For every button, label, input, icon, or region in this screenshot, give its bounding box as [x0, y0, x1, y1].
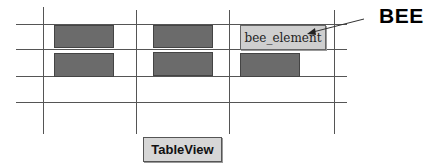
table-view-label: TableView — [143, 137, 222, 162]
